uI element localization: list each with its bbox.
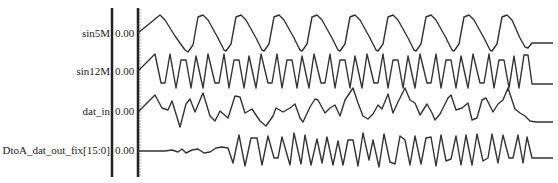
signal-name[interactable]: DtoA_dat_out_fix[15:0]	[2, 144, 110, 156]
signal-value: 0.00	[115, 144, 134, 156]
signal-name[interactable]: sin12M	[76, 65, 110, 77]
waveform-sin5m	[138, 15, 553, 52]
waveform-dat-in	[138, 88, 553, 127]
waveform-sin12m	[138, 54, 553, 88]
signal-value: 0.00	[115, 65, 134, 77]
waveforms	[138, 15, 553, 167]
signal-value: 0.00	[115, 105, 134, 117]
signal-value: 0.00	[115, 27, 134, 39]
time-axis-ticks	[139, 10, 141, 175]
signal-name[interactable]: sin5M	[82, 27, 110, 39]
signal-name[interactable]: dat_in	[83, 105, 111, 117]
waveform-dtoa-dat-out-fix-15-0-	[138, 133, 553, 167]
